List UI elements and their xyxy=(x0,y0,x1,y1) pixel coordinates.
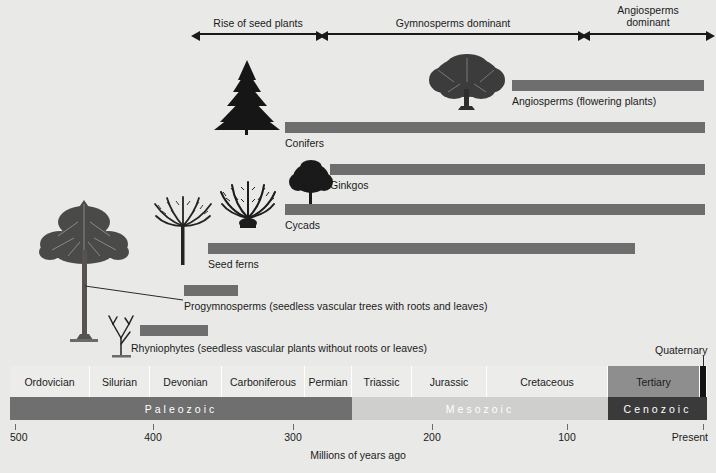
label-angiosperms: Angiosperms (flowering plants) xyxy=(512,95,656,107)
period-tertiary[interactable]: Tertiary xyxy=(608,366,700,397)
range-bar-conifers xyxy=(285,122,705,133)
axis-tick-label: 300 xyxy=(284,431,302,443)
arrow-gymnosperms-dominant-label: Gymnosperms dominant xyxy=(328,17,578,29)
range-bar-angiosperms xyxy=(512,80,704,91)
period-silurian[interactable]: Silurian xyxy=(90,366,150,397)
label-ginkgos: Ginkgos xyxy=(330,179,369,191)
era-cenozoic[interactable]: Cenozoic xyxy=(608,397,707,420)
label-conifers: Conifers xyxy=(285,137,324,149)
quaternary-pointer-line xyxy=(703,356,704,366)
period-ordovician[interactable]: Ordovician xyxy=(10,366,90,397)
label-seed-ferns: Seed ferns xyxy=(208,258,259,270)
period-quaternary[interactable] xyxy=(700,366,707,397)
axis-title: Millions of years ago xyxy=(0,449,716,461)
range-bar-cycads xyxy=(285,204,705,215)
geologic-periods-row: OrdovicianSilurianDevonianCarboniferousP… xyxy=(10,366,707,397)
arrow-rise-of-seed-plants xyxy=(200,33,316,35)
axis-tick-label: 200 xyxy=(423,431,441,443)
arrow-head-left-icon xyxy=(319,31,328,41)
axis-tick xyxy=(567,424,568,430)
axis-tick xyxy=(703,424,704,430)
range-bar-ginkgos xyxy=(330,164,705,175)
label-progymnosperms: Progymnosperms (seedless vascular trees … xyxy=(184,300,487,312)
era-paleozoic[interactable]: Paleozoic xyxy=(10,397,352,420)
plant-evolution-timeline-figure: Rise of seed plantsGymnosperms dominantA… xyxy=(0,0,716,473)
cycad-illustration xyxy=(218,178,278,230)
period-cretaceous[interactable]: Cretaceous xyxy=(487,366,608,397)
label-cycads: Cycads xyxy=(285,219,320,231)
arrow-head-right-icon xyxy=(706,31,715,41)
arrow-angiosperms-dominant xyxy=(590,33,706,35)
arrow-head-left-icon xyxy=(581,31,590,41)
arrow-gymnosperms-dominant xyxy=(328,33,578,35)
quaternary-label: Quaternary xyxy=(655,344,708,356)
era-mesozoic[interactable]: Mesozoic xyxy=(352,397,608,420)
angiosperm-tree-illustration xyxy=(424,52,510,114)
axis-tick xyxy=(432,424,433,430)
arrow-head-left-icon xyxy=(191,31,200,41)
axis-tick-label: Present xyxy=(672,431,708,443)
range-bar-seed-ferns xyxy=(208,243,635,254)
conifer-tree-illustration xyxy=(212,58,282,136)
axis-tick-label: 500 xyxy=(10,431,28,443)
period-triassic[interactable]: Triassic xyxy=(352,366,412,397)
geologic-eras-row: PaleozoicMesozoicCenozoic xyxy=(10,397,707,420)
ginkgo-tree-illustration xyxy=(288,158,334,208)
axis-tick xyxy=(15,424,16,430)
axis-tick-label: 100 xyxy=(558,431,576,443)
progymnosperm-leader-line xyxy=(85,285,183,301)
period-permian[interactable]: Permian xyxy=(305,366,352,397)
seed-fern-illustration xyxy=(152,196,214,268)
period-jurassic[interactable]: Jurassic xyxy=(412,366,487,397)
arrow-rise-of-seed-plants-label: Rise of seed plants xyxy=(200,17,316,29)
axis-tick xyxy=(153,424,154,430)
label-rhyniophytes: Rhyniophytes (seedless vascular plants w… xyxy=(131,342,427,354)
range-bar-rhyniophytes xyxy=(140,325,208,336)
axis-tick xyxy=(293,424,294,430)
period-carboniferous[interactable]: Carboniferous xyxy=(222,366,305,397)
range-bar-progymnosperms xyxy=(184,285,238,296)
arrow-angiosperms-dominant-label: Angiosperms dominant xyxy=(590,4,706,28)
axis-tick-label: 400 xyxy=(144,431,162,443)
period-devonian[interactable]: Devonian xyxy=(150,366,222,397)
